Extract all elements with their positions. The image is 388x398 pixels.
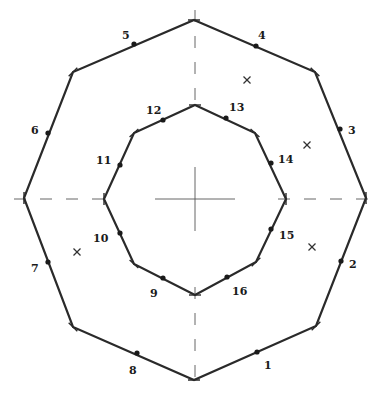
inner-octagon-vertex-tick: [130, 260, 139, 268]
node-13: [223, 115, 228, 120]
node-8: [134, 350, 139, 355]
node-16: [224, 274, 229, 279]
node-label-2: 2: [349, 258, 357, 271]
node-12: [160, 117, 165, 122]
node-9: [160, 275, 165, 280]
node-3: [337, 126, 342, 131]
inner-octagon-vertex-tick: [251, 129, 260, 137]
inner-octagon-vertex-tick: [130, 129, 139, 137]
node-label-13: 13: [229, 101, 244, 114]
node-label-16: 16: [232, 285, 248, 298]
octagon-diagram: 12345678910111213141516: [0, 0, 388, 398]
node-label-14: 14: [278, 153, 294, 166]
node-11: [117, 162, 122, 167]
node-5: [131, 41, 136, 46]
node-10: [117, 230, 122, 235]
symmetry-axes: [14, 10, 376, 390]
node-label-15: 15: [279, 229, 294, 242]
node-4: [253, 43, 258, 48]
node-label-11: 11: [96, 154, 111, 167]
node-label-6: 6: [31, 124, 39, 137]
node-labels: 12345678910111213141516: [31, 29, 357, 377]
node-15: [268, 226, 273, 231]
node-label-5: 5: [122, 29, 130, 42]
x-marker-icon: [74, 249, 81, 256]
node-label-10: 10: [93, 232, 109, 245]
node-1: [254, 349, 259, 354]
node-label-1: 1: [264, 359, 272, 372]
node-7: [45, 259, 50, 264]
node-label-7: 7: [31, 262, 39, 275]
x-marker-icon: [309, 244, 316, 251]
node-14: [268, 160, 273, 165]
node-label-12: 12: [146, 104, 161, 117]
node-6: [45, 130, 50, 135]
node-label-8: 8: [129, 364, 137, 377]
node-2: [338, 258, 343, 263]
node-label-9: 9: [150, 287, 158, 300]
node-label-3: 3: [348, 124, 356, 137]
x-marker-icon: [244, 77, 251, 84]
x-marker-icon: [304, 142, 311, 149]
inner-octagon-vertex-tick: [252, 258, 261, 266]
node-label-4: 4: [258, 29, 266, 42]
